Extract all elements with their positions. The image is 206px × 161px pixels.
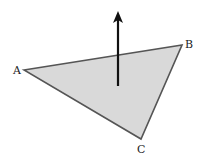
vertex-label-c: C <box>137 143 145 156</box>
vertex-label-a: A <box>12 64 22 77</box>
triangle-abc <box>24 45 182 139</box>
triangle-diagram: A B C <box>0 0 206 161</box>
vertex-label-b: B <box>185 38 193 51</box>
